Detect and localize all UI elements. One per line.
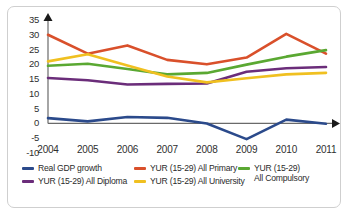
legend-item[interactable]: Real GDP growth <box>22 163 102 173</box>
x-tick-label: 2004 <box>31 144 65 155</box>
series-line-0 <box>48 117 326 139</box>
legend-swatch-icon <box>134 167 146 170</box>
y-tick-label: 15 <box>17 73 39 84</box>
line-chart-svg <box>8 7 342 159</box>
y-axis-arrow-icon <box>44 13 53 21</box>
x-tick-label: 2009 <box>230 144 264 155</box>
legend-item-label: YUR (15-29) All Compulsory <box>254 163 309 183</box>
legend-swatch-icon <box>22 180 34 183</box>
x-tick-label: 2005 <box>71 144 105 155</box>
legend-item-label: YUR (15-29) All University <box>150 176 245 186</box>
x-tick-label: 2007 <box>150 144 184 155</box>
x-tick-label: 2008 <box>190 144 224 155</box>
series-line-1 <box>48 34 326 64</box>
y-tick-label: 10 <box>17 88 39 99</box>
x-tick-label: 2006 <box>110 144 144 155</box>
y-tick-label: -5 <box>17 132 39 143</box>
y-tick-label: 20 <box>17 58 39 69</box>
y-tick-label: 35 <box>17 14 39 25</box>
y-tick-label: 0 <box>17 117 39 128</box>
y-tick-label: 5 <box>17 103 39 114</box>
legend-item-label: YUR (15-29) All Primary <box>150 163 237 173</box>
axes-group <box>44 13 341 128</box>
legend-item[interactable]: YUR (15-29) All Compulsory <box>238 163 309 183</box>
legend-item-label: Real GDP growth <box>38 163 102 173</box>
legend-item[interactable]: YUR (15-29) All Primary <box>134 163 237 173</box>
chart-legend: Real GDP growthYUR (15-29) All PrimaryYU… <box>16 163 338 205</box>
x-axis-arrow-icon <box>332 119 340 128</box>
legend-swatch-icon <box>22 167 34 170</box>
legend-item[interactable]: YUR (15-29) All University <box>134 176 245 186</box>
x-tick-label: 2010 <box>269 144 303 155</box>
legend-item-label: YUR (15-29) All Diploma <box>38 176 127 186</box>
y-tick-label: 30 <box>17 29 39 40</box>
legend-swatch-icon <box>134 180 146 183</box>
x-tick-label: 2011 <box>309 144 343 155</box>
plot-area: 35302520151050-5-10 20042005200620072008… <box>8 7 342 159</box>
legend-item[interactable]: YUR (15-29) All Diploma <box>22 176 127 186</box>
chart-card: 35302520151050-5-10 20042005200620072008… <box>7 6 341 208</box>
y-tick-label: 25 <box>17 44 39 55</box>
legend-swatch-icon <box>238 167 250 170</box>
